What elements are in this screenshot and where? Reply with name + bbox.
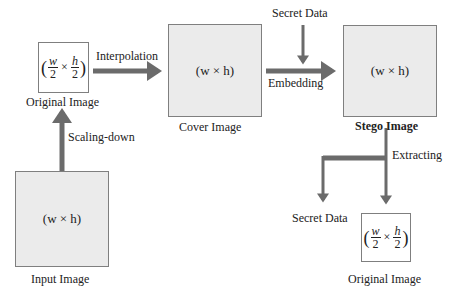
half-size-expression: ( w2 × h2 ) (364, 225, 409, 250)
full-size-expression: (w × h) (43, 211, 81, 227)
secret-data-label-bottom: Secret Data (292, 211, 348, 226)
input-image-label: Input Image (31, 272, 89, 287)
embedding-label: Embedding (268, 76, 323, 91)
original-image-box-top: ( w2 × h2 ) (38, 42, 89, 93)
scaling-down-label: Scaling-down (68, 130, 135, 145)
full-size-expression: (w × h) (196, 63, 234, 79)
stego-image-label: Stego Image (355, 119, 418, 134)
half-size-expression: ( w2 × h2 ) (41, 55, 86, 80)
original-image-label-top: Original Image (26, 95, 99, 110)
cover-image-label: Cover Image (179, 120, 241, 135)
stego-image-box: (w × h) (343, 25, 437, 117)
original-image-box-bottom: ( w2 × h2 ) (361, 213, 411, 262)
extracting-label: Extracting (392, 148, 442, 163)
secret-data-label-top: Secret Data (272, 6, 328, 21)
interpolation-label: Interpolation (96, 49, 158, 64)
original-image-label-bottom: Original Image (348, 272, 421, 287)
full-size-expression: (w × h) (371, 63, 409, 79)
input-image-box: (w × h) (15, 171, 109, 267)
cover-image-box: (w × h) (168, 24, 262, 117)
